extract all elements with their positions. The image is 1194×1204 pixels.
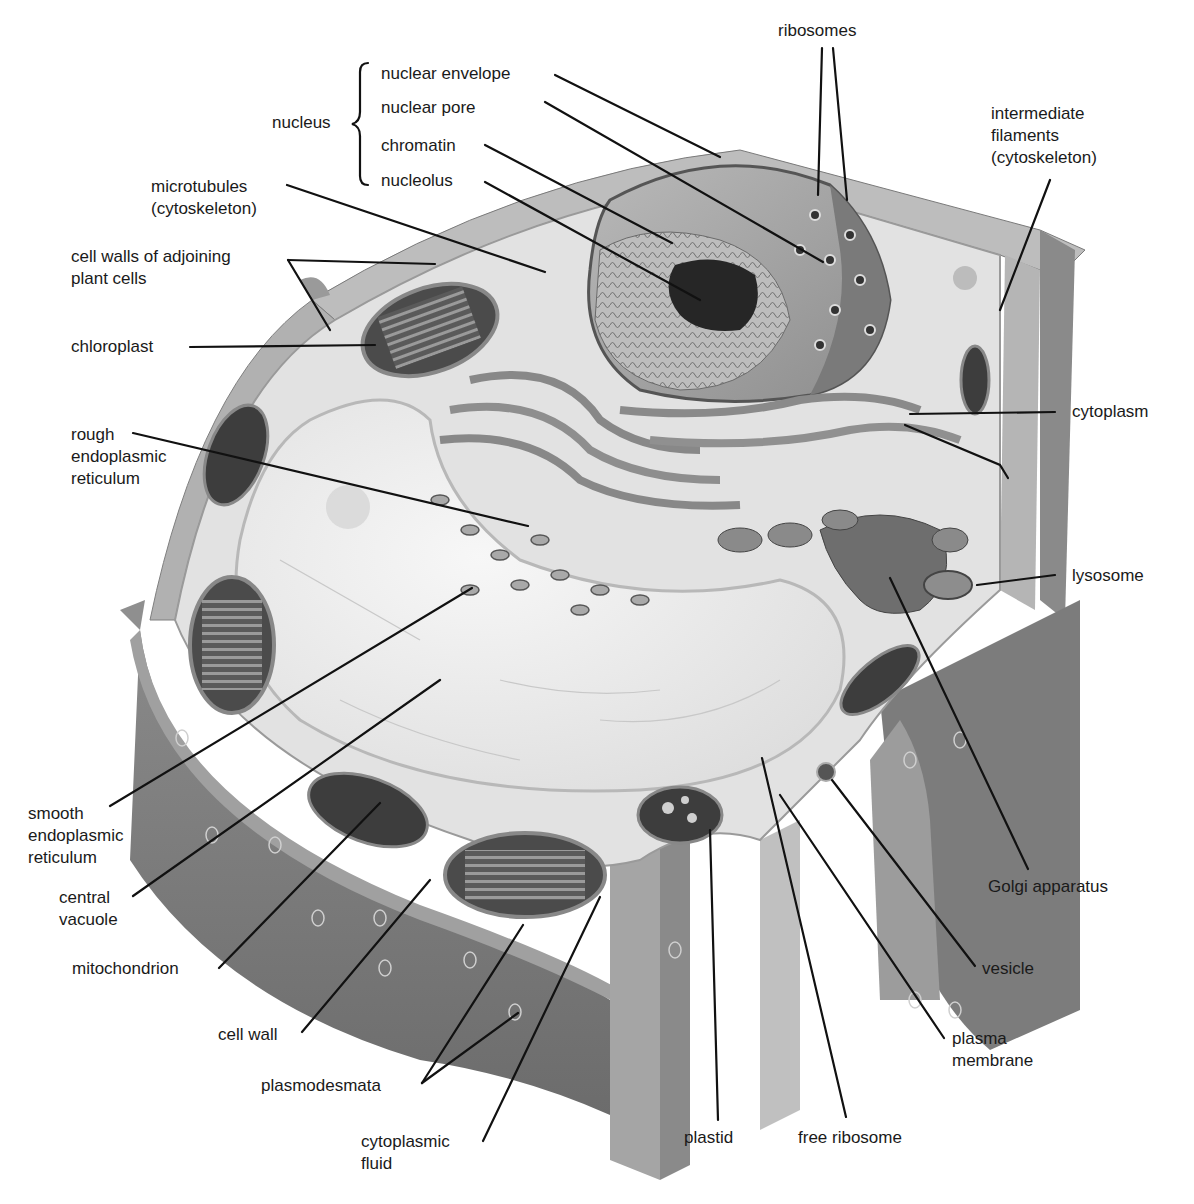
lysosome [924, 571, 972, 599]
label-intermediate-filaments: intermediate filaments (cytoskeleton) [991, 103, 1097, 169]
label-central-vacuole: central vacuole [59, 887, 118, 931]
label-plasmodesmata: plasmodesmata [261, 1075, 381, 1097]
vesicle [817, 763, 835, 781]
label-cell-wall: cell wall [218, 1024, 278, 1046]
label-lysosome: lysosome [1072, 565, 1144, 587]
label-chromatin: chromatin [381, 135, 456, 157]
label-nucleolus: nucleolus [381, 170, 453, 192]
label-nuclear-envelope: nuclear envelope [381, 63, 510, 85]
label-cell-walls-adjoining: cell walls of adjoining plant cells [71, 246, 231, 290]
label-rough-er: rough endoplasmic reticulum [71, 424, 166, 490]
label-cytoplasm: cytoplasm [1072, 401, 1149, 423]
label-ribosomes: ribosomes [778, 20, 856, 42]
label-cytoplasmic-fluid: cytoplasmic fluid [361, 1131, 450, 1175]
label-plasma-membrane: plasma membrane [952, 1028, 1033, 1072]
nucleus [589, 166, 890, 402]
label-plastid: plastid [684, 1127, 733, 1149]
label-free-ribosome: free ribosome [798, 1127, 902, 1149]
label-golgi-apparatus: Golgi apparatus [988, 876, 1108, 898]
label-nucleus: nucleus [272, 112, 331, 134]
label-chloroplast: chloroplast [71, 336, 153, 358]
label-smooth-er: smooth endoplasmic reticulum [28, 803, 123, 869]
label-microtubules: microtubules (cytoskeleton) [151, 176, 257, 220]
label-mitochondrion: mitochondrion [72, 958, 179, 980]
label-vesicle: vesicle [982, 958, 1034, 980]
label-nuclear-pore: nuclear pore [381, 97, 476, 119]
